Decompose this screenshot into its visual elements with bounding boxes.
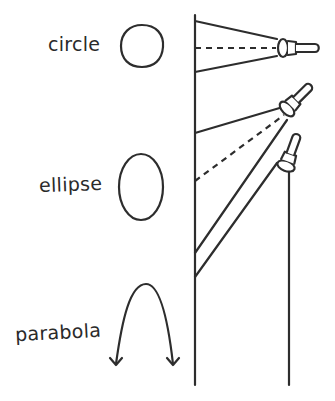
ellipse-beam	[195, 107, 287, 253]
flashlight-tilted-icon	[277, 79, 317, 119]
circle-shape	[121, 25, 163, 67]
flashlight-vertical-icon	[276, 131, 306, 174]
parabola-beam	[195, 163, 289, 385]
circle-beam	[195, 21, 277, 72]
ellipse-shape	[119, 154, 163, 220]
conic-diagram	[0, 0, 335, 401]
flashlight-horizontal-icon	[278, 39, 319, 57]
parabola-shape	[110, 284, 179, 365]
